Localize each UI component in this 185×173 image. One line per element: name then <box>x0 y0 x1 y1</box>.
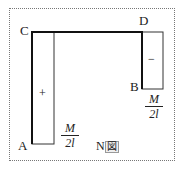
diagram-title-box: 図 <box>105 141 119 153</box>
diagram-title-main: N <box>96 139 105 153</box>
sign-negative: − <box>148 52 155 67</box>
point-label-b: B <box>130 80 139 93</box>
point-label-c: C <box>20 24 29 37</box>
value-ac-numerator: M <box>61 122 79 136</box>
value-db-denominator: 2l <box>145 107 163 120</box>
frame-members <box>32 32 142 144</box>
value-db: M 2l <box>145 93 163 120</box>
value-ac-denominator: 2l <box>61 136 79 149</box>
point-label-d: D <box>139 14 148 27</box>
value-ac: M 2l <box>61 122 79 149</box>
value-db-numerator: M <box>145 93 163 107</box>
point-label-a: A <box>18 139 27 152</box>
diagram-title: N図 <box>96 139 119 154</box>
sign-positive: + <box>39 86 46 101</box>
